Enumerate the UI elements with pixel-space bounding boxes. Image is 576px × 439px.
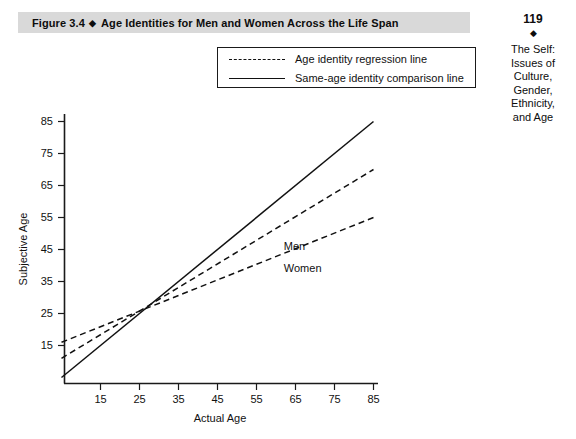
x-tick-label: 15 [94, 393, 106, 405]
series-line-men [62, 170, 374, 359]
y-axis-tick-labels: 15 25 35 45 55 65 75 85 [41, 115, 53, 351]
y-tick-label: 45 [41, 243, 53, 255]
y-tick-label: 85 [41, 115, 53, 127]
x-axis-title: Actual Age [194, 412, 247, 424]
x-tick-label: 35 [172, 393, 184, 405]
series-line-same-age-comparison [62, 122, 374, 378]
y-tick-label: 55 [41, 211, 53, 223]
series-annotation-men: Men [284, 240, 305, 252]
y-tick-label: 65 [41, 179, 53, 191]
x-tick-label: 75 [328, 393, 340, 405]
y-tick-label: 75 [41, 147, 53, 159]
chart-plot-area: 15 25 35 45 55 65 75 85 Subjective Age 1… [0, 0, 576, 439]
x-tick-label: 45 [211, 393, 223, 405]
x-tick-label: 25 [133, 393, 145, 405]
y-axis-ticks [58, 122, 65, 346]
y-tick-label: 15 [41, 339, 53, 351]
y-tick-label: 35 [41, 275, 53, 287]
y-axis-title: Subjective Age [17, 213, 29, 286]
x-tick-label: 65 [289, 393, 301, 405]
x-axis-ticks [101, 384, 374, 391]
series-annotation-women: Women [284, 262, 322, 274]
x-tick-label: 55 [250, 393, 262, 405]
x-tick-label: 85 [367, 393, 379, 405]
x-axis-tick-labels: 15 25 35 45 55 65 75 85 [94, 393, 379, 405]
series-line-women [62, 218, 374, 343]
y-tick-label: 25 [41, 307, 53, 319]
